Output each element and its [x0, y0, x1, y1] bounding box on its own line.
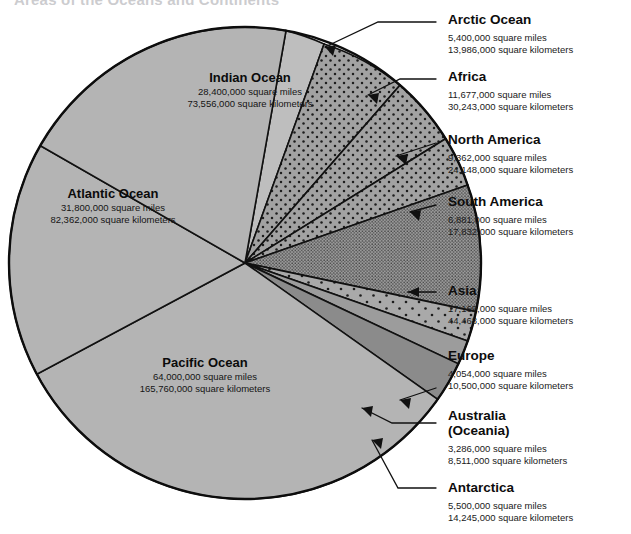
slice-name: South America [448, 194, 573, 209]
callout-antarctica: Antarctica 5,500,000 square miles 14,245… [448, 480, 573, 523]
pie-chart-figure: Areas of the Oceans and Continents [0, 0, 631, 534]
callout-arctic-ocean: Arctic Ocean 5,400,000 square miles 13,9… [448, 12, 573, 55]
slice-kilometers: 44,468,000 square kilometers [448, 315, 573, 327]
slice-name: Indian Ocean [150, 70, 350, 86]
slice-name: Asia [448, 283, 573, 298]
callout-south-america: South America 6,881,000 square miles 17,… [448, 194, 573, 237]
callout-australia: Australia (Oceania) 3,286,000 square mil… [448, 408, 567, 466]
callout-europe: Europe 4,054,000 square miles 10,500,000… [448, 348, 573, 391]
slice-name: Arctic Ocean [448, 12, 573, 27]
slice-miles: 11,677,000 square miles [448, 89, 573, 101]
slice-miles: 5,500,000 square miles [448, 500, 573, 512]
slice-name: Atlantic Ocean [18, 186, 208, 202]
callout-africa: Africa 11,677,000 square miles 30,243,00… [448, 69, 573, 112]
slice-kilometers: 73,556,000 square kilometers [150, 98, 350, 110]
slice-kilometers: 14,245,000 square kilometers [448, 512, 573, 524]
slice-kilometers: 165,760,000 square kilometers [105, 383, 305, 395]
slice-name: Antarctica [448, 480, 573, 495]
slice-miles: 31,800,000 square miles [18, 202, 208, 214]
slice-kilometers: 13,986,000 square kilometers [448, 44, 573, 56]
slice-miles: 28,400,000 square miles [150, 86, 350, 98]
slice-kilometers: 8,511,000 square kilometers [448, 455, 567, 467]
slice-miles: 6,881,000 square miles [448, 214, 573, 226]
slice-miles: 64,000,000 square miles [105, 371, 305, 383]
slice-name: Australia [448, 408, 567, 423]
slice-miles: 3,286,000 square miles [448, 443, 567, 455]
slice-kilometers: 24,148,000 square kilometers [448, 164, 573, 176]
slice-miles: 9,362,000 square miles [448, 152, 573, 164]
inpie-label-pacific-ocean: Pacific Ocean 64,000,000 square miles 16… [105, 355, 305, 394]
slice-kilometers: 30,243,000 square kilometers [448, 101, 573, 113]
slice-miles: 5,400,000 square miles [448, 32, 573, 44]
inpie-label-indian-ocean: Indian Ocean 28,400,000 square miles 73,… [150, 70, 350, 109]
slice-name: Europe [448, 348, 573, 363]
slice-kilometers: 17,832,000 square kilometers [448, 226, 573, 238]
callout-asia: Asia 17,169,000 square miles 44,468,000 … [448, 283, 573, 326]
slice-name: Africa [448, 69, 573, 84]
slice-name: Pacific Ocean [105, 355, 305, 371]
inpie-label-atlantic-ocean: Atlantic Ocean 31,800,000 square miles 8… [18, 186, 208, 225]
slice-miles: 4,054,000 square miles [448, 368, 573, 380]
slice-kilometers: 82,362,000 square kilometers [18, 214, 208, 226]
slice-miles: 17,169,000 square miles [448, 303, 573, 315]
slice-name: North America [448, 132, 573, 147]
slice-kilometers: 10,500,000 square kilometers [448, 380, 573, 392]
callout-north-america: North America 9,362,000 square miles 24,… [448, 132, 573, 175]
slice-name-line2: (Oceania) [448, 423, 567, 438]
